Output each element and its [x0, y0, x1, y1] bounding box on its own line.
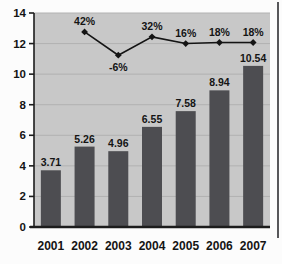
pct-label-2006: 18% [209, 26, 231, 38]
bar-line-chart: 3.715.264.966.557.588.9410.5402468101214… [0, 0, 282, 264]
pct-label-2002: 42% [74, 15, 96, 27]
bar-value-label-2005: 7.58 [175, 97, 196, 109]
chart-figure: 3.715.264.966.557.588.9410.5402468101214… [0, 0, 282, 264]
x-label-2001: 2001 [38, 239, 65, 253]
bar-2006 [209, 90, 229, 227]
bar-value-label-2004: 6.55 [142, 113, 163, 125]
x-label-2006: 2006 [206, 239, 233, 253]
pct-label-2005: 16% [175, 27, 197, 39]
pct-label-2003: -6% [109, 61, 128, 73]
pct-label-2007: 18% [243, 26, 265, 38]
y-tick-label-0: 0 [20, 221, 26, 233]
pct-label-2004: 32% [141, 20, 163, 32]
y-tick-label-4: 4 [20, 160, 27, 172]
bar-value-label-2006: 8.94 [209, 76, 230, 88]
y-tick-label-10: 10 [13, 68, 26, 80]
bar-2002 [75, 147, 95, 227]
x-label-2004: 2004 [139, 239, 166, 253]
bar-2001 [41, 170, 61, 227]
bar-value-label-2003: 4.96 [108, 137, 129, 149]
x-label-2002: 2002 [71, 239, 98, 253]
bar-value-label-2001: 3.71 [41, 156, 62, 168]
y-tick-label-12: 12 [13, 38, 26, 50]
x-label-2007: 2007 [240, 239, 267, 253]
y-tick-label-8: 8 [20, 99, 27, 111]
bar-value-label-2002: 5.26 [74, 133, 95, 145]
x-label-2005: 2005 [172, 239, 199, 253]
y-tick-label-14: 14 [13, 7, 26, 19]
x-label-2003: 2003 [105, 239, 132, 253]
bar-value-label-2007: 10.54 [240, 52, 266, 64]
y-tick-label-2: 2 [20, 190, 26, 202]
bar-2007 [243, 66, 263, 227]
y-tick-label-6: 6 [20, 129, 26, 141]
bar-2003 [108, 151, 128, 227]
bar-2004 [142, 127, 162, 227]
bar-2005 [176, 111, 196, 227]
